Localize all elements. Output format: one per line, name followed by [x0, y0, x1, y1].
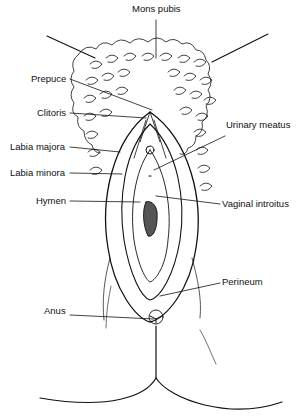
leader-lines — [70, 20, 225, 319]
label-labia-majora: Labia majora — [10, 142, 65, 152]
left-buttock-curve — [40, 378, 156, 402]
label-prepuce: Prepuce — [31, 74, 66, 84]
label-perineum: Perineum — [222, 277, 263, 287]
right-buttock-curve — [156, 378, 282, 409]
leader-hymen — [70, 201, 140, 202]
label-vaginal-introitus: Vaginal introitus — [222, 199, 289, 209]
leader-prepuce — [70, 79, 152, 110]
label-labia-minora: Labia minora — [10, 168, 65, 178]
label-anus: Anus — [44, 306, 66, 316]
label-mons-pubis: Mons pubis — [132, 4, 181, 14]
leader-vaginal-introitus — [156, 196, 220, 204]
leader-perineum — [160, 283, 220, 296]
left-crease-line — [103, 258, 110, 320]
line-illustration — [0, 0, 299, 420]
anatomy-diagram: Mons pubis Prepuce Clitoris Urinary meat… — [0, 0, 299, 420]
right-thigh-shading — [200, 330, 216, 364]
leader-clitoris — [70, 113, 146, 118]
left-thigh-shading — [106, 286, 111, 328]
label-clitoris: Clitoris — [37, 108, 66, 118]
prepuce-folds — [134, 112, 166, 158]
vaginal-introitus-shape — [144, 201, 158, 236]
leader-labia-minora — [70, 173, 122, 174]
right-thigh-line — [212, 34, 268, 62]
label-hymen: Hymen — [36, 196, 66, 206]
label-urinary-meatus: Urinary meatus — [226, 120, 290, 130]
